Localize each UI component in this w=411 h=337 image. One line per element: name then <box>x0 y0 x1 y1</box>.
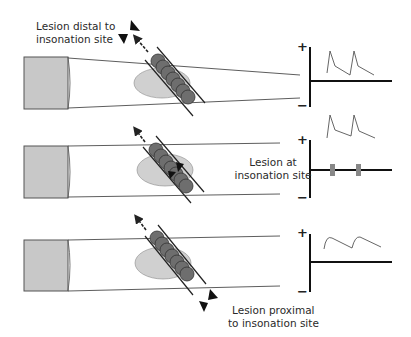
label-lesion-proximal: Lesion proximal to insonation site <box>228 304 319 330</box>
label-line: insonation site <box>36 33 115 46</box>
flow-arrow <box>136 130 145 142</box>
transducer-probe <box>24 146 70 198</box>
waveform-trace <box>327 51 374 75</box>
plus-sign: + <box>297 40 308 53</box>
plus-sign: + <box>297 133 308 146</box>
label-line: Lesion at <box>228 156 318 169</box>
flow-arrow <box>137 218 146 230</box>
diagram-canvas <box>0 0 411 337</box>
transducer-probe <box>24 240 70 291</box>
label-line: to insonation site <box>228 317 319 330</box>
doppler-waveform-graph <box>310 47 392 107</box>
waveform-trace <box>324 237 381 249</box>
lesion-marker <box>118 20 140 44</box>
label-line: insonation site <box>228 169 318 182</box>
label-line: Lesion distal to <box>36 20 115 33</box>
plus-sign: + <box>297 226 308 239</box>
flow-arrow <box>136 38 148 52</box>
waveform-trace <box>327 115 375 138</box>
bidirectional-spike <box>356 164 361 176</box>
lesion-marker <box>199 289 218 312</box>
doppler-waveform-graph <box>310 234 392 292</box>
panel-proximal <box>24 218 392 312</box>
label-lesion-at-site: Lesion at insonation site <box>228 156 318 182</box>
transducer-probe <box>24 57 70 109</box>
minus-sign: − <box>297 285 308 298</box>
panel-at-site <box>24 115 392 203</box>
label-line: Lesion proximal <box>228 304 319 317</box>
bidirectional-spike <box>330 164 335 176</box>
minus-sign: − <box>297 99 308 112</box>
minus-sign: − <box>297 191 308 204</box>
label-lesion-distal: Lesion distal to insonation site <box>36 20 115 46</box>
doppler-waveform-graph <box>310 115 392 198</box>
